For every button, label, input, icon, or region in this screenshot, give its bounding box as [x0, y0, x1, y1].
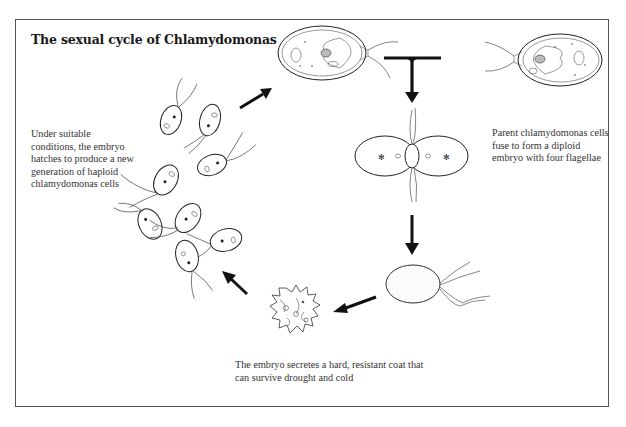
- caption-fuse: Parent chlamydomonas cells fuse to form …: [492, 127, 612, 165]
- resistant-coat-embryo: [270, 285, 320, 333]
- svg-text:✻: ✻: [443, 153, 450, 162]
- arrow-to-parents: [240, 94, 263, 108]
- fusion-arrow: [384, 58, 441, 103]
- arrow-to-coat: [343, 297, 376, 309]
- arrow-to-hatch: [230, 278, 247, 294]
- fusing-cells: ✻ ✻: [355, 108, 468, 202]
- parent-cell-left: [278, 26, 398, 80]
- svg-text:✻: ✻: [378, 153, 385, 162]
- parent-cell-right: [485, 34, 602, 86]
- caption-coat: The embryo secretes a hard, resistant co…: [235, 359, 425, 384]
- diploid-embryo: [386, 262, 490, 306]
- caption-hatch: Under suitable conditions, the embryo ha…: [31, 128, 136, 191]
